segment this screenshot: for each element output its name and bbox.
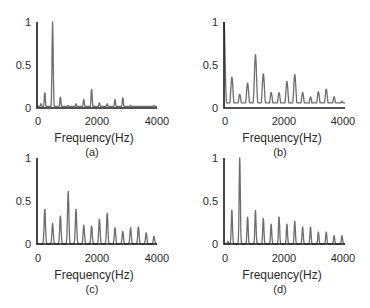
ytick-0.5: 0.5	[16, 195, 31, 207]
xtick-2000: 2000	[85, 115, 109, 127]
spectrum-trace-d	[224, 158, 345, 244]
xtick-2000: 2000	[85, 252, 109, 264]
xtick-4000: 4000	[145, 252, 169, 264]
spectrum-trace-c	[37, 192, 157, 245]
axes-a	[37, 22, 157, 108]
xtick-4000: 4000	[331, 115, 355, 127]
axes-d	[224, 158, 345, 244]
xtick-0: 0	[222, 252, 228, 264]
ytick-1: 1	[25, 16, 31, 28]
panel-caption: (c)	[86, 283, 99, 295]
ytick-0: 0	[212, 238, 218, 250]
xtick-4000: 4000	[331, 252, 355, 264]
xtick-2000: 2000	[272, 252, 296, 264]
ytick-0: 0	[212, 102, 218, 114]
ytick-0: 0	[25, 102, 31, 114]
ytick-1: 1	[212, 152, 218, 164]
spectrum-trace-a	[37, 22, 157, 106]
xtick-0: 0	[222, 115, 228, 127]
ytick-0.5: 0.5	[203, 59, 218, 71]
panel-a: 1 0.5 0 0 2000 4000 Frequency(Hz) (a)	[16, 16, 170, 158]
panel-caption: (a)	[85, 146, 98, 158]
x-axis-label: Frequency(Hz)	[242, 268, 321, 282]
panel-caption: (b)	[273, 146, 286, 158]
xtick-2000: 2000	[272, 115, 296, 127]
panel-d: 1 0.5 0 0 2000 4000 Frequency(Hz) (d)	[203, 152, 356, 295]
panel-c: 1 0.5 0 0 2000 4000 Frequency(Hz) (c)	[16, 152, 170, 295]
xtick-4000: 4000	[145, 115, 169, 127]
xtick-0: 0	[35, 252, 41, 264]
x-axis-label: Frequency(Hz)	[54, 268, 133, 282]
figure: 1 0.5 0 0 2000 4000 Frequency(Hz) (a) 1 …	[0, 0, 370, 308]
panel-caption: (d)	[273, 283, 286, 295]
x-axis-label: Frequency(Hz)	[242, 131, 321, 145]
ytick-0: 0	[25, 238, 31, 250]
spectrum-trace-b	[224, 22, 345, 103]
ytick-1: 1	[25, 152, 31, 164]
ytick-0.5: 0.5	[16, 59, 31, 71]
xtick-0: 0	[35, 115, 41, 127]
panel-b: 1 0.5 0 0 2000 4000 Frequency(Hz) (b)	[203, 16, 356, 158]
ytick-1: 1	[212, 16, 218, 28]
ytick-0.5: 0.5	[203, 195, 218, 207]
x-axis-label: Frequency(Hz)	[54, 131, 133, 145]
